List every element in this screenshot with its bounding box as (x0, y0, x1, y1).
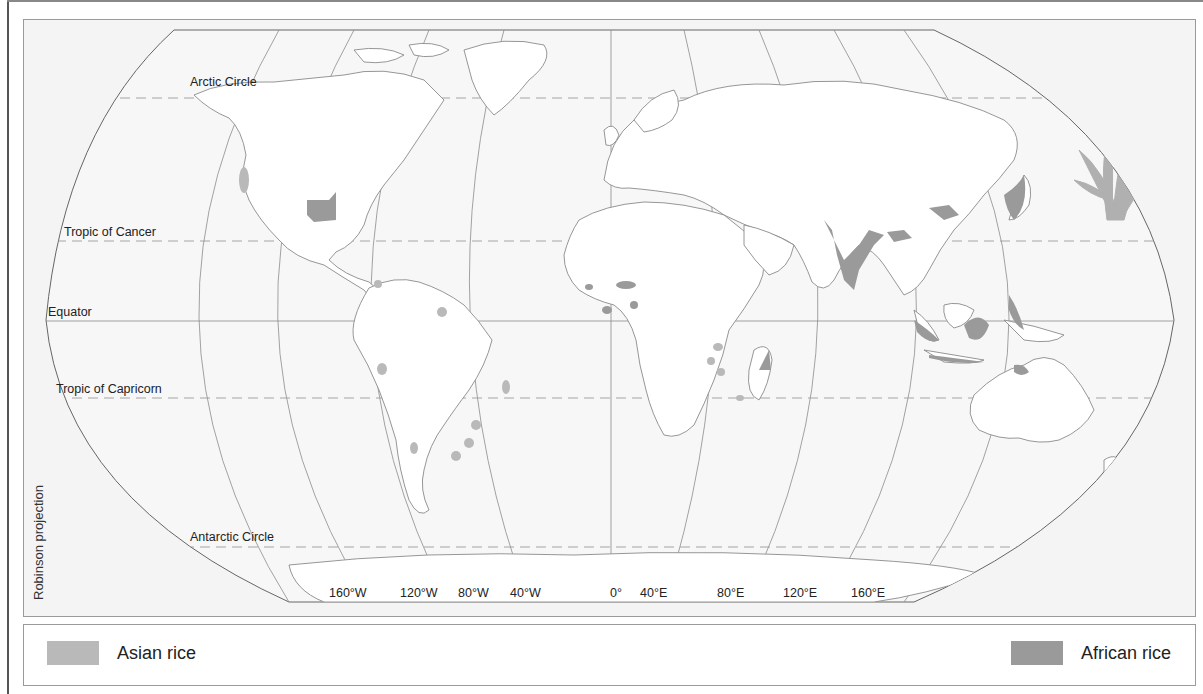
longitude-label-160e: 160°E (851, 586, 885, 600)
longitude-label-80e: 80°E (717, 586, 744, 600)
longitude-label-120w: 120°W (400, 586, 438, 600)
tropic-of-cancer-label: Tropic of Cancer (64, 225, 156, 239)
globe-outline (46, 30, 1174, 602)
page-border-left (7, 0, 9, 694)
longitude-label-80w: 80°W (458, 586, 489, 600)
legend-item-asian-rice: Asian rice (47, 641, 196, 665)
longitude-label-0: 0° (610, 586, 622, 600)
arctic-circle-label: Arctic Circle (190, 75, 257, 89)
longitude-label-40w: 40°W (510, 586, 541, 600)
legend-label: African rice (1081, 643, 1171, 664)
page-border-top (7, 0, 1203, 2)
world-map: Arctic Circle Tropic of Cancer Equator T… (23, 19, 1196, 617)
legend-label: Asian rice (117, 643, 196, 664)
longitude-label-120e: 120°E (783, 586, 817, 600)
legend-item-african-rice: African rice (1011, 641, 1171, 665)
projection-label: Robinson projection (31, 485, 46, 600)
legend: Asian rice African rice (23, 624, 1196, 686)
asian-rice-swatch (47, 641, 99, 665)
equator-label: Equator (48, 305, 92, 319)
tropic-of-capricorn-label: Tropic of Capricorn (56, 382, 162, 396)
map-canvas (24, 20, 1195, 616)
longitude-label-160w: 160°W (329, 586, 367, 600)
antarctic-circle-label: Antarctic Circle (190, 530, 274, 544)
african-rice-swatch (1011, 641, 1063, 665)
longitude-label-40e: 40°E (640, 586, 667, 600)
